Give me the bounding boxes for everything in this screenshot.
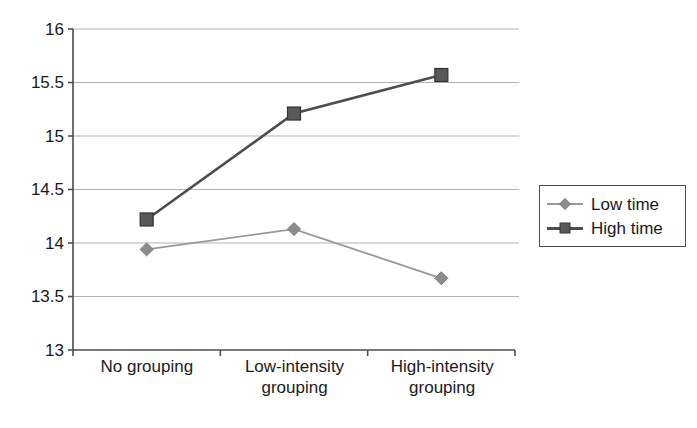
diamond-marker-icon bbox=[558, 197, 572, 211]
chart-legend: Low time High time bbox=[539, 185, 686, 247]
line-chart: 16 15.5 15 14.5 14 13.5 13 No grouping L… bbox=[0, 0, 697, 428]
y-tick-label: 14.5 bbox=[20, 181, 64, 198]
x-tick-label-high-intensity-grouping: High-intensity grouping bbox=[368, 356, 516, 426]
y-tick-label: 15.5 bbox=[20, 74, 64, 91]
legend-swatch-high-time bbox=[545, 218, 585, 238]
square-marker-icon bbox=[558, 221, 572, 235]
series-line-low-time bbox=[147, 229, 442, 278]
y-tick-label: 13.5 bbox=[20, 288, 64, 305]
data-point-high-time-2 bbox=[435, 69, 448, 82]
y-tick-label: 15 bbox=[20, 128, 64, 145]
x-tick-label-no-grouping: No grouping bbox=[73, 356, 221, 426]
legend-label-low-time: Low time bbox=[585, 195, 659, 214]
data-point-low-time-1 bbox=[288, 223, 301, 236]
data-point-high-time-0 bbox=[140, 213, 153, 226]
series-line-high-time bbox=[147, 75, 442, 219]
y-tick-label: 13 bbox=[20, 342, 64, 359]
legend-item-high-time: High time bbox=[545, 216, 679, 240]
data-point-low-time-2 bbox=[435, 272, 448, 285]
legend-item-low-time: Low time bbox=[545, 192, 679, 216]
y-tick-label: 16 bbox=[20, 21, 64, 38]
y-tick-label: 14 bbox=[20, 235, 64, 252]
x-tick-label-low-intensity-grouping: Low-intensity grouping bbox=[221, 356, 369, 426]
x-axis-category-labels: No grouping Low-intensity grouping High-… bbox=[73, 356, 516, 426]
data-point-high-time-1 bbox=[288, 107, 301, 120]
data-point-low-time-0 bbox=[140, 243, 153, 256]
legend-swatch-low-time bbox=[545, 194, 585, 214]
y-axis-tick-labels: 16 15.5 15 14.5 14 13.5 13 bbox=[12, 0, 64, 428]
legend-label-high-time: High time bbox=[585, 219, 663, 238]
